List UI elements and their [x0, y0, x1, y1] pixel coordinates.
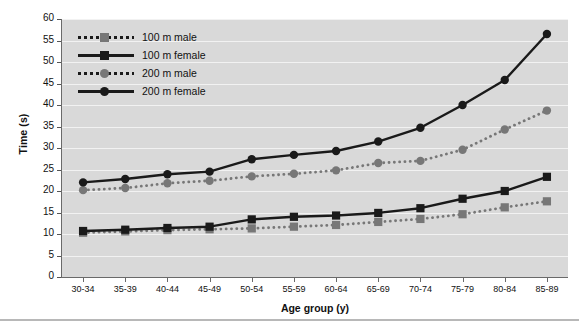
- legend-item-100m-male: 100 m male: [78, 28, 268, 46]
- y-axis-tick-label: 30: [30, 141, 54, 152]
- legend-label-200m-female: 200 m female: [142, 85, 206, 97]
- data-point-marker: [458, 210, 466, 218]
- data-point-marker: [501, 125, 509, 133]
- y-axis-tick-label: 0: [30, 270, 54, 281]
- legend-item-200m-female: 200 m female: [78, 82, 268, 100]
- legend-circle-marker-icon: [100, 69, 109, 78]
- x-axis-tick-mark: [125, 278, 126, 282]
- data-point-marker: [205, 223, 213, 231]
- data-point-marker: [248, 224, 256, 232]
- legend-swatch-200m-female: [78, 84, 134, 98]
- x-axis-tick-mark: [378, 278, 379, 282]
- y-axis-title: Time (s): [17, 89, 29, 179]
- data-point-marker: [374, 209, 382, 217]
- data-point-marker: [248, 172, 256, 180]
- legend-item-200m-male: 200 m male: [78, 64, 268, 82]
- y-axis-tick-label: 50: [30, 55, 54, 66]
- data-point-marker: [416, 124, 424, 132]
- data-point-marker: [458, 101, 466, 109]
- y-axis-tick-label: 45: [30, 77, 54, 88]
- data-point-marker: [374, 159, 382, 167]
- data-point-marker: [79, 186, 87, 194]
- data-point-marker: [501, 187, 509, 195]
- x-axis-tick-mark: [420, 278, 421, 282]
- data-point-marker: [290, 213, 298, 221]
- x-axis-title: Age group (y): [62, 302, 568, 314]
- footer-divider: [0, 319, 579, 321]
- y-axis-tick-label: 60: [30, 12, 54, 23]
- legend-circle-marker-icon: [100, 87, 109, 96]
- legend-swatch-200m-male: [78, 66, 134, 80]
- x-axis-tick-mark: [167, 278, 168, 282]
- data-point-marker: [416, 215, 424, 223]
- data-point-marker: [163, 179, 171, 187]
- legend-label-100m-male: 100 m male: [142, 31, 197, 43]
- x-axis-tick-label: 30-34: [61, 284, 105, 294]
- chart-legend: 100 m male 100 m female 200 m male 200 m…: [78, 28, 268, 100]
- y-axis-tick-label: 55: [30, 34, 54, 45]
- data-point-marker: [332, 147, 340, 155]
- data-point-marker: [416, 204, 424, 212]
- x-axis-tick-label: 55-59: [272, 284, 316, 294]
- data-point-marker: [416, 157, 424, 165]
- legend-label-100m-female: 100 m female: [142, 49, 206, 61]
- data-point-marker: [332, 166, 340, 174]
- data-point-marker: [248, 215, 256, 223]
- x-axis-tick-mark: [463, 278, 464, 282]
- x-axis-tick-mark: [210, 278, 211, 282]
- series-line: [83, 111, 547, 191]
- data-point-marker: [374, 218, 382, 226]
- y-axis-tick-label: 15: [30, 206, 54, 217]
- data-point-marker: [543, 173, 551, 181]
- data-point-marker: [458, 146, 466, 154]
- legend-swatch-100m-male: [78, 30, 134, 44]
- x-axis-line: [61, 277, 568, 278]
- x-axis-tick-mark: [547, 278, 548, 282]
- x-axis-tick-label: 60-64: [314, 284, 358, 294]
- data-point-marker: [79, 178, 87, 186]
- legend-square-marker-icon: [100, 33, 109, 42]
- data-point-marker: [458, 195, 466, 203]
- x-axis-tick-label: 35-39: [103, 284, 147, 294]
- y-axis-tick-label: 10: [30, 227, 54, 238]
- x-axis-tick-label: 40-44: [145, 284, 189, 294]
- data-point-marker: [290, 170, 298, 178]
- legend-label-200m-male: 200 m male: [142, 67, 197, 79]
- legend-item-100m-female: 100 m female: [78, 46, 268, 64]
- x-axis-tick-label: 45-49: [188, 284, 232, 294]
- x-axis-tick-label: 50-54: [230, 284, 274, 294]
- y-axis-tick-label: 40: [30, 98, 54, 109]
- data-point-marker: [121, 184, 129, 192]
- y-axis-tick-label: 20: [30, 184, 54, 195]
- data-point-marker: [163, 224, 171, 232]
- legend-swatch-100m-female: [78, 48, 134, 62]
- data-point-marker: [163, 170, 171, 178]
- data-point-marker: [374, 137, 382, 145]
- data-point-marker: [543, 197, 551, 205]
- data-point-marker: [121, 175, 129, 183]
- x-axis-tick-mark: [336, 278, 337, 282]
- x-axis-tick-label: 65-69: [356, 284, 400, 294]
- data-point-marker: [332, 211, 340, 219]
- data-point-marker: [501, 203, 509, 211]
- data-point-marker: [332, 221, 340, 229]
- legend-square-marker-icon: [100, 51, 109, 60]
- data-point-marker: [543, 106, 551, 114]
- chart-figure: Time (s) 051015202530354045505560 30-343…: [0, 0, 579, 325]
- data-point-marker: [290, 223, 298, 231]
- x-axis-tick-mark: [505, 278, 506, 282]
- x-axis-tick-mark: [252, 278, 253, 282]
- x-axis-tick-mark: [83, 278, 84, 282]
- x-axis-tick-label: 70-74: [398, 284, 442, 294]
- y-axis-tick-label: 5: [30, 249, 54, 260]
- data-point-marker: [79, 227, 87, 235]
- data-point-marker: [543, 30, 551, 38]
- y-axis-tick-label: 25: [30, 163, 54, 174]
- y-axis-tick-label: 35: [30, 120, 54, 131]
- data-point-marker: [501, 76, 509, 84]
- x-axis-tick-label: 85-89: [525, 284, 569, 294]
- x-axis-tick-mark: [294, 278, 295, 282]
- data-point-marker: [248, 155, 256, 163]
- data-point-marker: [121, 226, 129, 234]
- x-axis-tick-label: 80-84: [483, 284, 527, 294]
